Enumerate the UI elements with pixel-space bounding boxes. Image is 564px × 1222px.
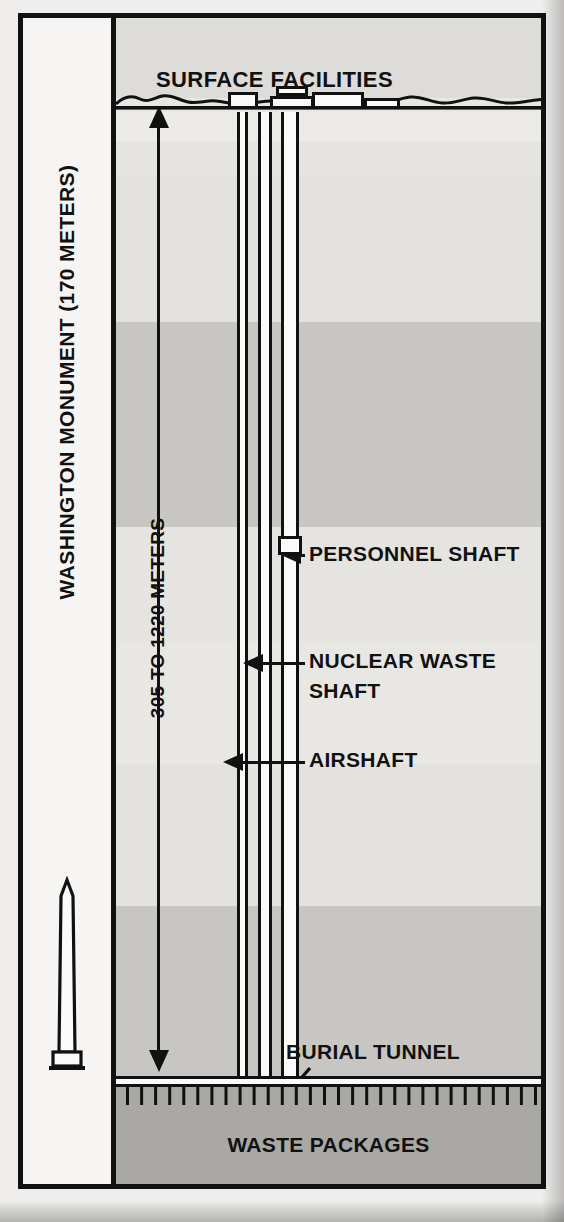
surface-facilities-title: SURFACE FACILITIES: [156, 67, 393, 93]
airshaft-arrow: [223, 753, 243, 771]
personnel-shaft-label: PERSONNEL SHAFT: [309, 542, 520, 566]
diagram-root: WASHINGTON MONUMENT (170 METERS): [0, 0, 564, 1222]
stratum-mid-dark: [116, 322, 541, 527]
depth-arrow-head-down: [149, 1050, 169, 1072]
surface-building-1: [228, 92, 258, 109]
monument-scale-label: WASHINGTON MONUMENT (170 METERS): [55, 165, 79, 600]
stratum-upper-pale: [116, 142, 541, 176]
waste-packages-band: WASTE PACKAGES: [116, 1087, 541, 1184]
nuclear-waste-shaft-arrow: [243, 654, 263, 672]
burial-tunnel-label: BURIAL TUNNEL: [286, 1040, 460, 1064]
monument-panel: WASHINGTON MONUMENT (170 METERS): [23, 18, 116, 1184]
scan-edge-shadow-bottom: [0, 1200, 564, 1222]
depth-range-label: 305 TO 1220 METERS: [147, 518, 169, 718]
nuclear-waste-shaft-label-line2: SHAFT: [309, 679, 496, 703]
nuclear-waste-shaft-label-line1: NUCLEAR WASTE: [309, 649, 496, 672]
nuclear-waste-shaft-leader: [261, 662, 305, 665]
stratum-upper-band: [116, 176, 541, 322]
stratum-upper-light: [116, 112, 541, 142]
shaft-nuclear-waste-shaft: [281, 112, 299, 1076]
surface-building-2: [276, 86, 308, 96]
figure-frame: WASHINGTON MONUMENT (170 METERS): [18, 13, 546, 1189]
scan-edge-shadow-right: [542, 0, 564, 1222]
airshaft-label: AIRSHAFT: [309, 748, 418, 772]
burial-tunnel: [116, 1076, 541, 1087]
shaft-airshaft: [237, 112, 248, 1076]
geologic-section: SURFACE FACILITIES 305 TO 1220 METERS PE…: [116, 18, 541, 1184]
hoist-car: [278, 536, 302, 555]
surface-building-4: [312, 92, 364, 109]
waste-packages-label: WASTE PACKAGES: [116, 1133, 541, 1157]
washington-monument-icon: [49, 876, 85, 1090]
surface-building-5: [364, 98, 400, 109]
nuclear-waste-shaft-label: NUCLEAR WASTE SHAFT: [309, 649, 496, 703]
waste-package-ticks: [116, 1087, 541, 1113]
shaft-personnel-shaft: [258, 112, 272, 1076]
airshaft-leader: [241, 761, 305, 764]
stratum-lower-light: [116, 764, 541, 906]
surface-building-3: [270, 96, 314, 109]
